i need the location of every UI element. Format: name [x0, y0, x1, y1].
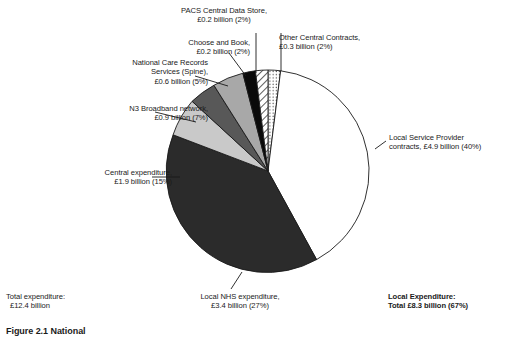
label-central-line1: Central expenditure,	[105, 168, 172, 177]
label-local-nhs-expenditure: Local NHS expenditure, £3.4 billion (27%…	[170, 292, 310, 311]
total-expenditure-line2: £12.4 billion	[6, 301, 136, 310]
label-n3-broadband-network: N3 Broadband network, £0.9 billion (7%)	[42, 104, 208, 123]
figure-container: PACS Central Data Store, £0.2 billion (2…	[0, 0, 528, 337]
label-pacs-central-data-store: PACS Central Data Store, £0.2 billion (2…	[150, 6, 298, 25]
label-lsp-line1: Local Service Provider	[389, 133, 464, 142]
total-expenditure-annotation: Total expenditure: £12.4 billion	[6, 292, 136, 311]
label-local-service-provider: Local Service Provider contracts, £4.9 b…	[389, 133, 525, 152]
label-central-expenditure: Central expenditure, £1.9 billion (15%)	[32, 168, 172, 187]
label-n3-line2: £0.9 billion (7%)	[42, 113, 208, 122]
label-nhs-line1: Local NHS expenditure,	[200, 292, 279, 301]
total-expenditure-line1: Total expenditure:	[6, 292, 65, 301]
pie-slices	[166, 70, 369, 272]
label-national-care-records-spine: National Care Records Services (Spine), …	[60, 58, 208, 86]
label-lsp-line2: contracts, £4.9 billion (40%)	[389, 142, 525, 151]
local-expenditure-line1: Local Expenditure:	[388, 292, 455, 301]
label-other-line2: £0.3 billion (2%)	[279, 42, 409, 51]
label-choose-line1: Choose and Book,	[188, 38, 250, 47]
label-choose-line2: £0.2 billion (2%)	[110, 47, 250, 56]
leader-lsp	[375, 141, 386, 149]
label-central-line2: £1.9 billion (15%)	[32, 177, 172, 186]
label-spine-line1: National Care Records	[132, 58, 208, 67]
label-other-line1: Other Central Contracts,	[279, 33, 360, 42]
label-other-central-contracts: Other Central Contracts, £0.3 billion (2…	[279, 33, 409, 52]
label-nhs-line2: £3.4 billion (27%)	[170, 301, 310, 310]
label-choose-and-book: Choose and Book, £0.2 billion (2%)	[110, 38, 250, 57]
label-spine-line3: £0.6 billion (5%)	[60, 77, 208, 86]
leader-local-nhs	[231, 272, 242, 289]
local-expenditure-annotation: Local Expenditure: Total £8.3 billion (6…	[388, 292, 528, 311]
local-expenditure-line2: Total £8.3 billion (67%)	[388, 301, 528, 310]
label-n3-line1: N3 Broadband network,	[129, 104, 208, 113]
figure-caption: Figure 2.1 National	[6, 326, 306, 337]
label-pacs-line2: £0.2 billion (2%)	[150, 15, 298, 24]
label-pacs-line1: PACS Central Data Store,	[181, 6, 267, 15]
label-spine-line2: Services (Spine),	[60, 67, 208, 76]
